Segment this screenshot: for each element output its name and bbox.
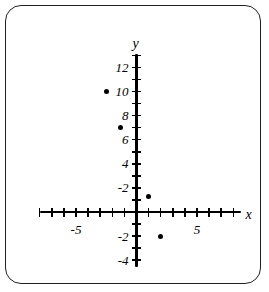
y-axis-tick: [132, 235, 141, 237]
y-axis-tick: [132, 187, 141, 189]
x-axis-tick: [51, 208, 53, 217]
data-point: [104, 89, 109, 94]
x-axis-tick: [112, 208, 114, 217]
y-axis-tick-label: -4: [118, 254, 129, 267]
y-axis-tick: [132, 127, 141, 129]
y-axis-tick: [132, 103, 141, 105]
x-axis-name-label: x: [246, 208, 252, 222]
x-axis-tick: [220, 208, 222, 217]
data-point: [118, 125, 123, 130]
y-axis-tick: [132, 151, 141, 153]
data-point: [146, 194, 151, 199]
y-axis-tick: [132, 91, 141, 93]
y-axis-tick: [132, 55, 141, 57]
y-axis-tick-label: -2: [118, 181, 129, 194]
y-axis-tick: [132, 259, 141, 261]
x-axis-tick: [184, 208, 186, 217]
y-axis-tick: [132, 139, 141, 141]
y-axis-name-label: y: [133, 37, 139, 51]
y-axis-tick: [132, 163, 141, 165]
x-axis-tick: [148, 208, 150, 217]
y-axis-tick-label: 10: [116, 85, 129, 98]
y-axis-tick-label: -2: [118, 230, 129, 243]
x-axis-tick: [63, 208, 65, 217]
plot-area: 1210864-2-2-4-55xy: [0, 0, 269, 292]
x-axis-tick-label: 5: [177, 223, 217, 236]
x-axis-tick-label: -5: [56, 223, 96, 236]
y-axis-tick-label: 8: [122, 109, 129, 122]
x-axis-tick: [233, 208, 235, 217]
y-axis-tick-label: 4: [122, 157, 129, 170]
y-axis-tick: [132, 115, 141, 117]
x-axis-tick: [208, 208, 210, 217]
y-axis-tick: [132, 223, 141, 225]
y-axis-tick: [132, 175, 141, 177]
x-axis-line: [40, 211, 241, 213]
y-axis-tick: [132, 199, 141, 201]
x-axis-tick: [124, 208, 126, 217]
y-axis-tick-label: 12: [116, 61, 129, 74]
data-point: [158, 234, 163, 239]
y-axis-tick: [132, 67, 141, 69]
x-axis-tick: [39, 208, 41, 217]
x-axis-tick: [196, 208, 198, 217]
scatter-plot-figure: 1210864-2-2-4-55xy: [0, 0, 269, 292]
x-axis-tick: [75, 208, 77, 217]
x-axis-tick: [87, 208, 89, 217]
x-axis-tick: [160, 208, 162, 217]
y-axis-tick-label: 6: [122, 133, 129, 146]
x-axis-tick: [172, 208, 174, 217]
y-axis-tick: [132, 247, 141, 249]
x-axis-tick: [99, 208, 101, 217]
y-axis-tick: [132, 79, 141, 81]
